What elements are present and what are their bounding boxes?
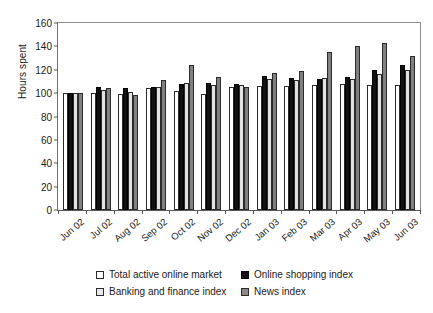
bar xyxy=(382,43,387,210)
bar-group xyxy=(225,23,253,210)
x-axis-tick-mark xyxy=(392,210,393,214)
x-axis-tick-mark xyxy=(336,210,337,214)
white-square-icon xyxy=(96,271,104,279)
x-axis-tick-mark xyxy=(142,210,143,214)
bar xyxy=(78,93,83,210)
y-axis-title: Hours spent xyxy=(17,12,28,132)
bar-group xyxy=(336,23,364,210)
x-axis-tick-mark xyxy=(197,210,198,214)
light-gray-square-icon xyxy=(96,288,104,296)
plot-area: 020406080100120140160 xyxy=(57,22,421,211)
bar-group xyxy=(364,23,392,210)
legend-item[interactable]: Banking and finance index xyxy=(96,286,241,297)
chart-legend: Total active online marketOnline shoppin… xyxy=(96,266,401,300)
bar-group xyxy=(391,23,419,210)
bar-group xyxy=(281,23,309,210)
bar-group xyxy=(197,23,225,210)
bar-group xyxy=(87,23,115,210)
bar xyxy=(133,95,138,210)
bar-group xyxy=(308,23,336,210)
legend-item[interactable]: News index xyxy=(241,286,401,297)
x-axis-tick-mark xyxy=(225,210,226,214)
x-axis-tick-mark xyxy=(364,210,365,214)
bar xyxy=(216,77,221,210)
x-axis-tick-mark xyxy=(253,210,254,214)
legend-item-label: News index xyxy=(254,286,306,297)
dark-gray-square-icon xyxy=(241,288,249,296)
legend-item[interactable]: Online shopping index xyxy=(241,269,401,280)
x-axis-tick-mark xyxy=(86,210,87,214)
bar xyxy=(355,46,360,210)
chart-figure: Hours spent 020406080100120140160 Jun 02… xyxy=(0,0,433,313)
bar xyxy=(327,52,332,210)
bar xyxy=(244,87,249,210)
legend-item-label: Online shopping index xyxy=(254,269,353,280)
bar-groups xyxy=(58,23,420,210)
legend-item-label: Total active online market xyxy=(109,269,222,280)
x-axis-tick-mark xyxy=(58,210,59,214)
x-axis-tick-mark xyxy=(420,210,421,214)
bar xyxy=(272,73,277,210)
bar xyxy=(299,71,304,210)
bar xyxy=(161,80,166,210)
bar xyxy=(189,65,194,210)
bar-group xyxy=(142,23,170,210)
legend-item[interactable]: Total active online market xyxy=(96,269,241,280)
bar-group xyxy=(114,23,142,210)
bar xyxy=(410,56,415,210)
black-square-icon xyxy=(241,271,249,279)
bar-group xyxy=(170,23,198,210)
x-axis-tick-mark xyxy=(114,210,115,214)
bar-group xyxy=(59,23,87,210)
legend-item-label: Banking and finance index xyxy=(109,286,226,297)
bar xyxy=(106,88,111,210)
x-axis-tick-mark xyxy=(309,210,310,214)
x-axis-tick-mark xyxy=(169,210,170,214)
x-axis-tick-mark xyxy=(281,210,282,214)
bar-group xyxy=(253,23,281,210)
